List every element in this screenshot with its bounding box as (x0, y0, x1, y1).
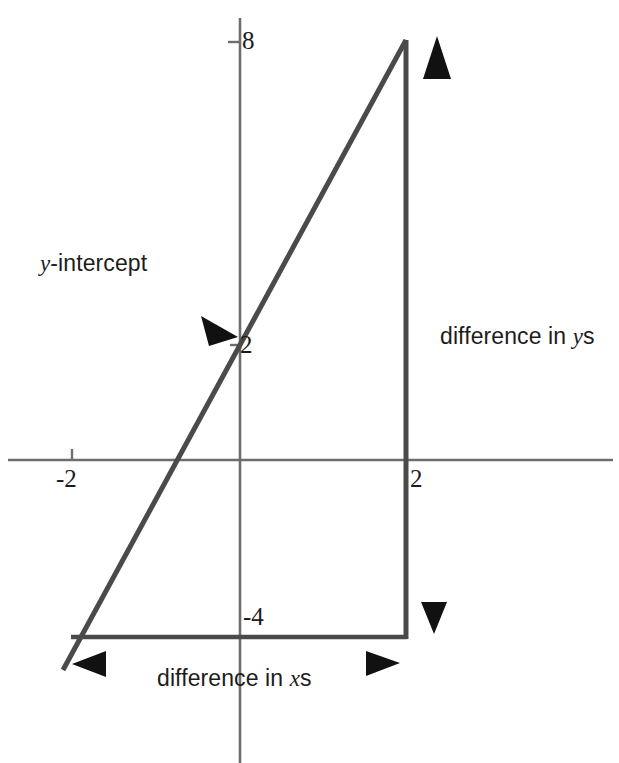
triangle-left-icon (72, 651, 106, 677)
function-line (63, 40, 406, 670)
difference-in-xs-italic-var: x (290, 666, 300, 691)
triangle-right-small-icon (201, 316, 238, 346)
slope-triangle-group (63, 40, 407, 670)
chart-canvas (0, 0, 619, 763)
x-axis-tick-label-2: 2 (410, 466, 423, 491)
y-axis-tick-label-2: 2 (240, 332, 253, 357)
triangle-right-icon (366, 651, 400, 676)
difference-in-xs-prefix: difference in (157, 665, 290, 691)
y-axis-tick-label-8: 8 (242, 28, 255, 53)
y-axis-tick-label-minus-4: -4 (243, 604, 264, 629)
difference-in-ys-italic-var: y (573, 324, 583, 349)
difference-in-ys-suffix: s (583, 323, 595, 349)
slope-triangle-figure: 8 2 -4 -2 2 y-intercept difference in ys… (0, 0, 619, 763)
difference-in-ys-prefix: difference in (440, 323, 573, 349)
difference-in-xs-suffix: s (300, 665, 312, 691)
x-axis-tick-label-minus-2: -2 (56, 466, 77, 491)
difference-in-ys-annotation: difference in ys (440, 325, 595, 348)
axes-group (8, 18, 613, 763)
y-intercept-annotation-text: -intercept (50, 250, 147, 276)
arrow-markers-group (72, 36, 451, 677)
triangle-up-icon (423, 36, 451, 79)
y-intercept-annotation: y-intercept (40, 252, 147, 275)
y-intercept-italic-var: y (40, 251, 50, 276)
triangle-down-icon (421, 602, 447, 634)
difference-in-xs-annotation: difference in xs (157, 667, 312, 690)
